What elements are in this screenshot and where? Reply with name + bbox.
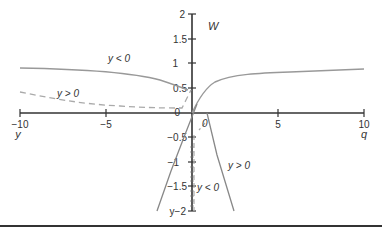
- annotation-y-neg-upper: y < 0: [107, 53, 130, 64]
- bottom-rule: [0, 225, 382, 227]
- x-tick-label: −5: [100, 119, 112, 130]
- y-tick-label: 1.5: [173, 34, 187, 45]
- annotation-y-pos-lower: y > 0: [227, 160, 250, 171]
- series-y-neg-upper-left: [20, 68, 188, 90]
- y-axis-label: W: [208, 20, 220, 32]
- series-y-neg-upper-right: [192, 69, 364, 113]
- annotation-y-neg-lower: y < 0: [196, 182, 219, 193]
- series-y-pos-upper-dashed: [20, 90, 191, 108]
- x-axis-label: q: [361, 128, 368, 140]
- x-tick-label: 5: [275, 119, 281, 130]
- y-tick-label: −1: [168, 157, 180, 168]
- annotation-zero: 0: [202, 118, 208, 129]
- y-tick-label: −1.5: [167, 181, 187, 192]
- y-tick-label: 1: [172, 58, 178, 69]
- y-tick-label: 2: [179, 9, 185, 20]
- y-tick-label: 0: [174, 107, 180, 118]
- y-tick-label: y−2: [170, 206, 187, 217]
- annotation-y-pos-upper: y > 0: [56, 88, 79, 99]
- chart-plot: −10 −5 5 10 q y 2 1.5 1 0.5 0 −0.5 −1 −1…: [0, 0, 382, 231]
